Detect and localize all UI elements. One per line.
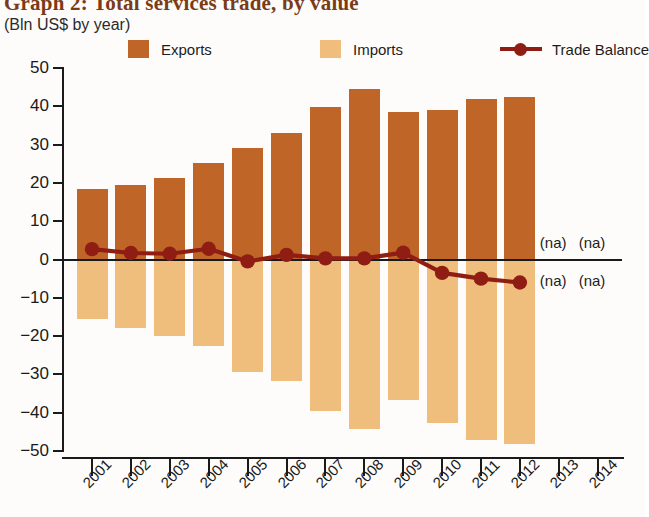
title-block: Graph 2: Total services trade, by value … bbox=[4, 0, 624, 34]
bar-imports bbox=[193, 260, 224, 346]
y-axis-label: 20 bbox=[9, 173, 49, 193]
legend-item-imports[interactable]: Imports bbox=[320, 38, 403, 60]
y-axis-tick bbox=[53, 67, 64, 69]
y-axis-tick bbox=[53, 297, 64, 299]
bar-exports bbox=[232, 148, 263, 259]
zero-baseline bbox=[62, 259, 622, 261]
legend-label-exports: Exports bbox=[161, 41, 212, 58]
y-axis-tick bbox=[53, 450, 64, 452]
x-axis-label: 2005 bbox=[235, 455, 271, 491]
y-axis-tick bbox=[53, 182, 64, 184]
bar-imports bbox=[232, 260, 263, 373]
bar-exports bbox=[310, 107, 341, 260]
x-axis-label: 2001 bbox=[79, 455, 115, 491]
chart-subtitle: (Bln US$ by year) bbox=[4, 15, 624, 34]
bar-imports bbox=[466, 260, 497, 440]
x-axis-label: 2013 bbox=[546, 455, 582, 491]
legend-label-trade-balance: Trade Balance bbox=[552, 41, 649, 58]
bar-exports bbox=[504, 97, 535, 259]
exports-swatch-icon bbox=[128, 40, 149, 58]
trade-balance-line-icon bbox=[500, 40, 542, 58]
x-axis-label: 2003 bbox=[157, 455, 193, 491]
bar-imports bbox=[154, 260, 185, 336]
x-axis-label: 2008 bbox=[351, 455, 387, 491]
y-axis-label: −20 bbox=[9, 326, 49, 346]
na-annotation: (na) bbox=[579, 234, 606, 251]
x-axis: 2001200220032004200520062007200820092010… bbox=[62, 457, 624, 517]
x-axis-label: 2004 bbox=[196, 455, 232, 491]
imports-swatch-icon bbox=[320, 40, 341, 58]
na-annotation: (na) bbox=[579, 272, 606, 289]
x-axis-label: 2007 bbox=[312, 455, 348, 491]
bar-exports bbox=[193, 163, 224, 260]
y-axis-tick bbox=[53, 105, 64, 107]
x-axis-label: 2002 bbox=[118, 455, 154, 491]
x-axis-label: 2006 bbox=[274, 455, 310, 491]
bar-exports bbox=[427, 110, 458, 260]
bar-exports bbox=[466, 99, 497, 260]
y-axis-tick bbox=[53, 335, 64, 337]
x-axis-label: 2014 bbox=[585, 455, 621, 491]
bar-imports bbox=[427, 260, 458, 423]
bar-exports bbox=[349, 89, 380, 259]
y-axis-label: −40 bbox=[9, 403, 49, 423]
bar-imports bbox=[271, 260, 302, 382]
plot-area: 50403020100−10−20−30−40−50 (na)(na)(na)(… bbox=[62, 62, 622, 457]
bar-imports bbox=[349, 260, 380, 429]
y-axis-label: 50 bbox=[9, 58, 49, 78]
y-axis-label: −30 bbox=[9, 364, 49, 384]
na-annotation: (na) bbox=[540, 272, 567, 289]
bar-exports bbox=[388, 112, 419, 259]
bar-exports bbox=[115, 185, 146, 260]
y-axis-tick bbox=[53, 412, 64, 414]
legend-item-trade-balance[interactable]: Trade Balance bbox=[500, 38, 649, 60]
legend-item-exports[interactable]: Exports bbox=[128, 38, 212, 60]
bar-imports bbox=[115, 260, 146, 328]
bar-imports bbox=[388, 260, 419, 400]
chart-legend: Exports Imports Trade Balance bbox=[128, 38, 638, 60]
na-annotation: (na) bbox=[540, 234, 567, 251]
x-axis-label: 2011 bbox=[468, 456, 503, 491]
bar-imports bbox=[504, 260, 535, 445]
y-axis-label: −50 bbox=[9, 441, 49, 461]
bar-imports bbox=[77, 260, 108, 320]
y-axis-label: 40 bbox=[9, 96, 49, 116]
x-axis-label: 2009 bbox=[390, 455, 426, 491]
page-title: Graph 2: Total services trade, by value bbox=[4, 0, 624, 14]
y-axis-tick bbox=[53, 220, 64, 222]
y-axis-tick bbox=[53, 373, 64, 375]
x-axis-label: 2012 bbox=[507, 455, 543, 491]
y-axis-label: 30 bbox=[9, 135, 49, 155]
bar-exports bbox=[77, 189, 108, 259]
y-axis-label: −10 bbox=[9, 288, 49, 308]
x-axis-label: 2010 bbox=[429, 455, 465, 491]
bar-imports bbox=[310, 260, 341, 412]
bar-exports bbox=[271, 133, 302, 259]
y-axis-tick bbox=[53, 144, 64, 146]
bar-exports bbox=[154, 178, 185, 260]
legend-label-imports: Imports bbox=[353, 41, 403, 58]
y-axis-label: 10 bbox=[9, 211, 49, 231]
x-axis-line bbox=[62, 457, 624, 459]
y-axis-label: 0 bbox=[9, 250, 49, 270]
